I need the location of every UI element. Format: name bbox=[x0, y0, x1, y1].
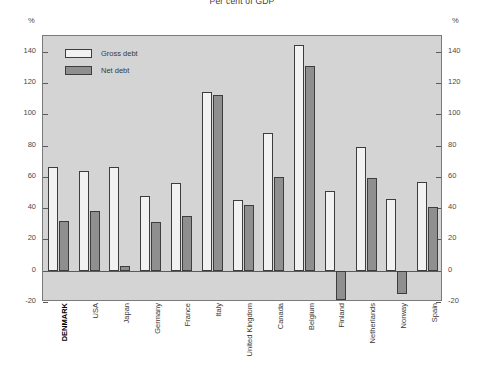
bar-finland-gross-debt bbox=[325, 191, 335, 271]
y-tick-label-right-0: 0 bbox=[448, 265, 484, 274]
x-axis-label-germany: Germany bbox=[153, 303, 162, 334]
bar-canada-net-debt bbox=[274, 177, 284, 271]
bar-belgium-gross-debt bbox=[294, 45, 304, 270]
bar-finland-net-debt bbox=[336, 271, 346, 301]
x-axis-label-finland: Finland bbox=[337, 303, 346, 328]
bar-japan-gross-debt bbox=[109, 167, 119, 270]
y-tick-label-left-20: 20 bbox=[0, 233, 36, 242]
bar-usa-net-debt bbox=[90, 211, 100, 270]
legend-item-gross-debt: Gross debt bbox=[65, 46, 138, 60]
plot-area: Gross debt Net debt bbox=[42, 35, 442, 301]
bar-germany-gross-debt bbox=[140, 196, 150, 271]
chart-figure: Per cent of GDP % % Gross debt Net debt … bbox=[0, 0, 484, 376]
legend-label-net-debt: Net debt bbox=[101, 66, 129, 75]
bar-usa-gross-debt bbox=[79, 171, 89, 271]
y-tick-label-left--20: -20 bbox=[0, 296, 36, 305]
bar-united-kingdom-net-debt bbox=[244, 205, 254, 271]
bar-germany-net-debt bbox=[151, 222, 161, 271]
y-tick-label-left-100: 100 bbox=[0, 108, 36, 117]
bar-belgium-net-debt bbox=[305, 66, 315, 271]
bar-united-kingdom-gross-debt bbox=[233, 200, 243, 270]
bar-france-gross-debt bbox=[171, 183, 181, 271]
y-tick-label-left-0: 0 bbox=[0, 265, 36, 274]
y-tick-label-left-40: 40 bbox=[0, 202, 36, 211]
chart-legend: Gross debt Net debt bbox=[65, 46, 138, 80]
x-axis-label-united-kingdom: United Kingdom bbox=[245, 303, 254, 356]
legend-label-gross-debt: Gross debt bbox=[101, 49, 138, 58]
bar-japan-net-debt bbox=[120, 266, 130, 271]
bar-italy-net-debt bbox=[213, 95, 223, 270]
x-axis-label-usa: USA bbox=[91, 303, 100, 318]
bar-spain-net-debt bbox=[428, 207, 438, 271]
x-axis-label-denmark: DENMARK bbox=[60, 303, 69, 341]
y-tick-label-left-60: 60 bbox=[0, 171, 36, 180]
chart-title: Per cent of GDP bbox=[0, 0, 484, 6]
bar-netherlands-gross-debt bbox=[356, 147, 366, 271]
legend-item-net-debt: Net debt bbox=[65, 63, 138, 77]
y-tick-label-left-80: 80 bbox=[0, 140, 36, 149]
y-tick-label-left-140: 140 bbox=[0, 46, 36, 55]
bar-france-net-debt bbox=[182, 216, 192, 271]
x-axis-label-canada: Canada bbox=[276, 303, 285, 329]
x-axis-label-japan: Japan bbox=[122, 303, 131, 323]
y-tick-label-right-60: 60 bbox=[448, 171, 484, 180]
x-axis-label-norway: Norway bbox=[399, 303, 408, 328]
x-axis-label-belgium: Belgium bbox=[307, 303, 316, 330]
bar-italy-gross-debt bbox=[202, 92, 212, 270]
y-tick-label-right-80: 80 bbox=[448, 140, 484, 149]
y-tick-label-left-120: 120 bbox=[0, 77, 36, 86]
bar-norway-net-debt bbox=[397, 271, 407, 294]
legend-swatch-net-debt bbox=[65, 66, 92, 75]
legend-swatch-gross-debt bbox=[65, 49, 92, 58]
bar-norway-gross-debt bbox=[386, 199, 396, 271]
y-tick-label-right-100: 100 bbox=[448, 108, 484, 117]
bar-canada-gross-debt bbox=[263, 133, 273, 271]
bar-denmark-net-debt bbox=[59, 221, 69, 271]
bar-netherlands-net-debt bbox=[367, 178, 377, 270]
bar-spain-gross-debt bbox=[417, 182, 427, 271]
y-axis-unit-right: % bbox=[452, 16, 459, 25]
y-tick-label-right-120: 120 bbox=[448, 77, 484, 86]
y-axis-unit-left: % bbox=[28, 16, 35, 25]
x-axis-label-italy: Italy bbox=[214, 303, 223, 317]
x-axis-label-netherlands: Netherlands bbox=[368, 303, 377, 343]
x-axis-category-labels: DENMARKUSAJapanGermanyFranceItalyUnited … bbox=[42, 303, 442, 373]
x-axis-label-spain: Spain bbox=[430, 303, 439, 322]
y-tick-label-right--20: -20 bbox=[448, 296, 484, 305]
y-tick-label-right-40: 40 bbox=[448, 202, 484, 211]
bar-denmark-gross-debt bbox=[48, 167, 58, 270]
x-axis-label-france: France bbox=[183, 303, 192, 326]
y-tick-label-right-140: 140 bbox=[448, 46, 484, 55]
y-tick-label-right-20: 20 bbox=[448, 233, 484, 242]
